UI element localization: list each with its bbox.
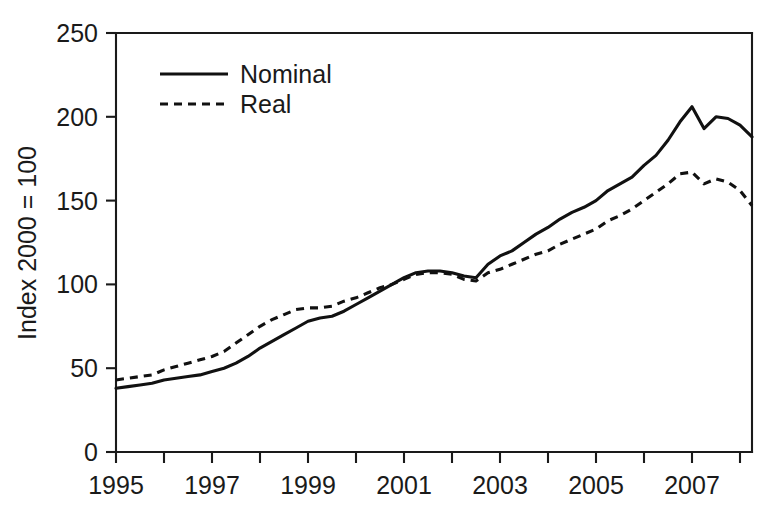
- y-axis-tick-labels: 050100150200250: [56, 19, 98, 466]
- x-tick-label-2007: 2007: [664, 471, 720, 499]
- series-line-real: [116, 172, 752, 380]
- y-tick-label-250: 250: [56, 19, 98, 47]
- x-tick-label-1999: 1999: [280, 471, 336, 499]
- chart-figure: 050100150200250 199519971999200120032005…: [0, 0, 777, 515]
- y-tick-label-100: 100: [56, 270, 98, 298]
- x-axis-ticks: [116, 452, 740, 463]
- y-tick-label-150: 150: [56, 187, 98, 215]
- y-axis-title: Index 2000 = 100: [13, 146, 41, 340]
- chart-canvas: 050100150200250 199519971999200120032005…: [0, 0, 777, 515]
- legend-label-real: Real: [240, 90, 291, 118]
- y-tick-label-200: 200: [56, 103, 98, 131]
- x-tick-label-2001: 2001: [376, 471, 432, 499]
- x-tick-label-2005: 2005: [568, 471, 624, 499]
- y-tick-label-50: 50: [70, 354, 98, 382]
- x-tick-label-1997: 1997: [184, 471, 240, 499]
- legend-label-nominal: Nominal: [240, 60, 332, 88]
- x-axis-tick-labels: 1995199719992001200320052007: [88, 471, 720, 499]
- x-tick-label-1995: 1995: [88, 471, 144, 499]
- y-axis-ticks: [106, 33, 116, 452]
- x-tick-label-2003: 2003: [472, 471, 528, 499]
- chart-legend: Nominal Real: [160, 60, 332, 118]
- series-line-nominal: [116, 107, 752, 389]
- y-tick-label-0: 0: [84, 438, 98, 466]
